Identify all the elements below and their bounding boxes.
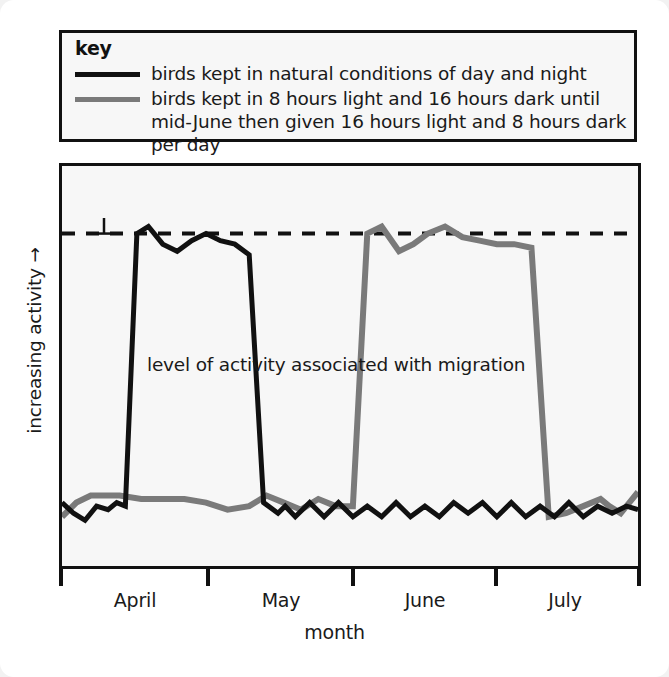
chart-plot-frame: level of activity associated with migrat… (59, 163, 641, 569)
key-title: key (75, 37, 112, 59)
legend-label-natural-conditions: birds kept in natural conditions of day … (151, 62, 631, 85)
x-axis-label-may: May (221, 589, 341, 611)
x-axis-ticks (59, 567, 641, 589)
legend-swatch-black-line (75, 72, 140, 77)
x-axis-label-april: April (75, 589, 195, 611)
x-axis-label-june: June (365, 589, 485, 611)
page-background: key birds kept in natural conditions of … (0, 0, 669, 677)
legend-swatch-gray-line (75, 97, 140, 102)
x-axis-title: month (0, 621, 669, 643)
migration-level-annotation: level of activity associated with migrat… (147, 354, 525, 375)
y-axis-title: increasing activity → (24, 221, 45, 461)
chart-legend-key-box: key birds kept in natural conditions of … (59, 30, 637, 142)
x-axis-label-july: July (505, 589, 625, 611)
legend-label-controlled-light: birds kept in 8 hours light and 16 hours… (151, 87, 631, 156)
